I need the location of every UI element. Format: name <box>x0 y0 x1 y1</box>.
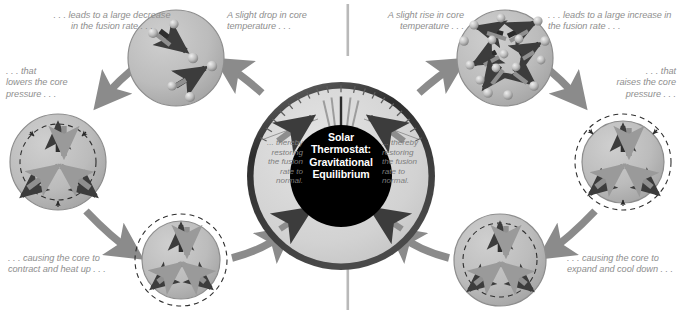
core-title-label: Solar Thermostat: Gravitational Equilibr… <box>293 131 389 181</box>
sphere-right-pressure-raise <box>575 114 671 210</box>
solar-thermostat-diagram: . . . leads to a large decrease in the f… <box>0 0 681 313</box>
sphere-right-expand <box>454 214 546 306</box>
caption-right-fusion-increase: . . . leads to a large increase in the f… <box>548 10 680 33</box>
divider-top <box>347 4 350 56</box>
arrow-right-pressure-to-expand <box>547 211 595 253</box>
caption-right-pressure-raise: . . . that raises the core pressure . . … <box>578 66 676 100</box>
arrow-left-pressure-to-contract <box>86 211 134 253</box>
caption-left-temp-drop: A slight drop in core temperature . . . <box>227 10 337 33</box>
caption-left-pressure-lower: . . . that lowers the core pressure . . … <box>6 66 116 100</box>
caption-left-fusion-decrease: . . . leads to a large decrease in the f… <box>22 10 202 33</box>
caption-left-contract: . . . causing the core to contract and h… <box>8 253 158 276</box>
caption-right-expand: . . . causing the core to expand and coo… <box>567 253 681 276</box>
dial-note-right: ... thereby restoring the fusion rate to… <box>382 138 439 186</box>
sphere-left-pressure-lower <box>10 114 106 210</box>
caption-right-temp-rise: A slight rise in core temperature . . . <box>352 10 464 33</box>
arrow-dial-to-right-temp <box>419 64 457 93</box>
sphere-right-fusion-increase <box>457 10 553 106</box>
arrow-dial-to-left-fusion <box>224 64 262 93</box>
